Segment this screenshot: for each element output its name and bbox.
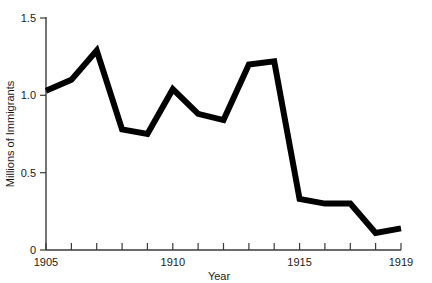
- x-axis-title: Year: [208, 270, 231, 282]
- x-tick-label-1905: 1905: [34, 256, 58, 268]
- chart-canvas: 0 0.5 1.0 1.5 1905 1910 1915 1919 Y: [0, 0, 432, 283]
- y-tick-label-1-0: 1.0: [21, 89, 36, 101]
- x-tick-label-1915: 1915: [287, 256, 311, 268]
- x-tick-label-1919: 1919: [389, 256, 413, 268]
- data-series-immigrants: [46, 50, 401, 233]
- immigration-line-chart: 0 0.5 1.0 1.5 1905 1910 1915 1919 Y: [0, 0, 432, 283]
- y-tick-label-0: 0: [30, 244, 36, 256]
- y-tick-label-0-5: 0.5: [21, 167, 36, 179]
- y-tick-marks: [40, 18, 46, 250]
- x-tick-label-1910: 1910: [161, 256, 185, 268]
- x-tick-marks: [46, 243, 401, 250]
- y-axis-title: Millions of Immigrants: [4, 80, 16, 187]
- y-tick-label-1-5: 1.5: [21, 12, 36, 24]
